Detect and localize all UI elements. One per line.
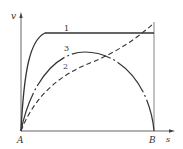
diagram-canvas: v s A B 1 3 2	[0, 0, 183, 149]
y-axis-arrow-icon	[19, 12, 22, 18]
y-axis-label: v	[11, 11, 16, 21]
x-axis-arrow-icon	[169, 129, 175, 132]
point-b-label: B	[148, 135, 156, 145]
curve-3-label: 3	[64, 44, 69, 53]
curve-1	[21, 33, 154, 131]
curve-1-label: 1	[64, 24, 69, 33]
velocity-diagram: v s A B 1 3 2	[0, 0, 183, 149]
curve-2-label: 2	[63, 62, 68, 71]
point-a-label: A	[16, 135, 24, 145]
x-axis-label: s	[166, 135, 170, 144]
